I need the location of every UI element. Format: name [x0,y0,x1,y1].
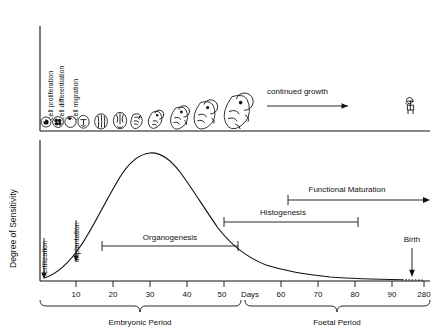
birth-label: Birth [404,235,420,244]
embryo-stage-neurula [113,112,126,128]
embryo-stage-morula [53,117,64,128]
sensitivity-chart: Degree of Sensitivity 10 20 30 40 50 Day… [8,140,431,327]
embryonic-period-brace [40,300,241,312]
functional-maturation-label: Functional Maturation [309,185,386,194]
sensitivity-curve [44,153,402,280]
embryo-stage-bilaminar-disc [78,115,89,128]
embryo-stage-early-foetus [194,100,218,129]
continued-growth-arrow-head [342,103,349,109]
xtick-label-60: 60 [277,290,286,299]
xtick-label-30: 30 [146,290,155,299]
phase-functional-maturation: Functional Maturation [288,185,430,205]
embryo-stage-trilaminar-disc [95,114,108,129]
period-braces: Embryonic Period Foetal Period [40,300,430,327]
x-axis-unit-label: Days [241,290,259,299]
xtick-label-80: 80 [351,290,360,299]
event-implantation: implantation [72,220,81,262]
foetal-period-label: Foetal Period [313,318,361,327]
y-axis-label: Degree of Sensitivity [8,188,18,268]
embryo-stage-zygote [41,117,51,127]
foetal-period-brace [245,300,430,312]
xtick-label-280: 280 [417,290,431,299]
event-fertilization: fertilization [40,238,49,279]
xtick-label-10: 10 [72,290,81,299]
continued-growth-label: continued growth [267,87,328,96]
phase-organogenesis: Organogenesis [102,233,238,251]
phase-histogenesis: Histogenesis [224,208,358,227]
organogenesis-label: Organogenesis [143,233,197,242]
top-panel: cell proliferation cell differentiation … [40,26,430,131]
embryo-stage-somite-embryo [131,114,142,129]
process-label-migration: cell migration [72,79,80,120]
functional-maturation-arrow-head [423,197,430,203]
embryo-stage-late-foetus [224,93,253,129]
embryonic-period-label: Embryonic Period [108,318,171,327]
event-birth: Birth [404,235,420,277]
fertilization-label: fertilization [40,241,49,276]
figure-canvas: cell proliferation cell differentiation … [0,0,446,336]
x-axis-tick-labels: 10 20 30 40 50 Days 60 70 80 90 280 [72,290,432,299]
embryo-stage-c-shaped-embryo [148,110,163,128]
newborn-infant-icon [405,98,414,115]
xtick-label-50: 50 [218,290,227,299]
xtick-label-70: 70 [314,290,323,299]
xtick-label-90: 90 [388,290,397,299]
xtick-label-20: 20 [109,290,118,299]
xtick-label-40: 40 [183,290,192,299]
embryo-stage-limb-bud-embryo [171,106,190,129]
histogenesis-label: Histogenesis [260,208,306,217]
critical-periods-figure: cell proliferation cell differentiation … [0,0,446,336]
birth-arrow-head [409,270,415,277]
process-label-proliferation: cell proliferation [47,71,55,120]
embryo-stage-blastocyst [65,116,76,127]
process-label-differentiation: cell differentiation [58,66,65,120]
x-axis-ticks [76,281,424,287]
